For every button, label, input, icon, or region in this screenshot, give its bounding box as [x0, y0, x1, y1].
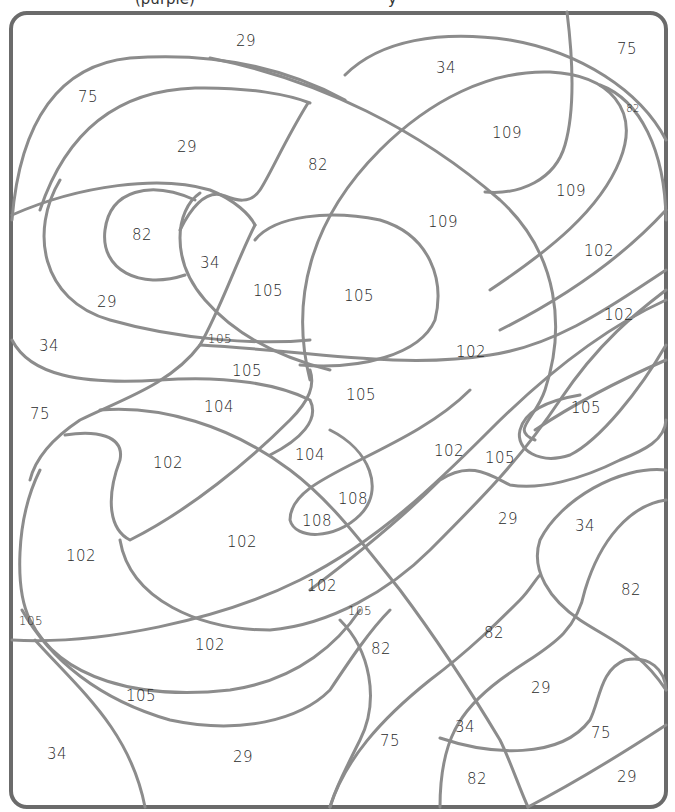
region-label: 102 — [434, 442, 464, 460]
region-label: 82 — [371, 640, 391, 658]
region-label: 102 — [227, 533, 257, 551]
region-label: 104 — [204, 398, 234, 416]
color-by-number-worksheet: (purple) y — [0, 0, 675, 812]
region-label: 82 — [467, 770, 487, 788]
region-label: 108 — [338, 490, 368, 508]
region-label: 82 — [132, 226, 152, 244]
region-label: 105 — [571, 399, 601, 417]
region-label: 108 — [302, 512, 332, 530]
region-label: 82 — [626, 103, 640, 114]
region-label: 34 — [455, 718, 475, 736]
region-label: 105 — [348, 604, 372, 618]
region-label: 105 — [344, 287, 374, 305]
region-label: 102 — [456, 343, 486, 361]
region-label: 29 — [617, 768, 637, 786]
region-label: 75 — [380, 732, 400, 750]
region-label: 29 — [97, 293, 117, 311]
region-label: 29 — [531, 679, 551, 697]
region-label: 104 — [295, 446, 325, 464]
region-label: 105 — [346, 386, 376, 404]
region-label: 109 — [556, 182, 586, 200]
region-label: 82 — [621, 581, 641, 599]
region-label: 102 — [604, 306, 634, 324]
region-label: 75 — [78, 88, 98, 106]
region-label: 105 — [485, 449, 515, 467]
region-label: 109 — [428, 213, 458, 231]
region-label: 82 — [308, 156, 328, 174]
region-label: 102 — [153, 454, 183, 472]
region-label: 102 — [66, 547, 96, 565]
region-label: 105 — [208, 332, 232, 346]
region-label: 75 — [617, 40, 637, 58]
region-label: 105 — [253, 282, 283, 300]
region-label: 34 — [200, 254, 220, 272]
region-label: 29 — [233, 748, 253, 766]
region-label: 29 — [177, 138, 197, 156]
region-label: 34 — [47, 745, 67, 763]
region-label: 34 — [575, 517, 595, 535]
region-label: 102 — [307, 577, 337, 595]
region-label: 109 — [492, 124, 522, 142]
region-label: 29 — [498, 510, 518, 528]
region-label: 105 — [126, 687, 156, 705]
region-label: 105 — [19, 614, 43, 628]
region-label: 75 — [591, 724, 611, 742]
region-label: 82 — [484, 624, 504, 642]
region-label: 34 — [39, 337, 59, 355]
region-label: 102 — [195, 636, 225, 654]
region-boundaries — [12, 12, 666, 807]
region-label: 34 — [436, 59, 456, 77]
region-label: 105 — [232, 362, 262, 380]
region-label: 102 — [584, 242, 614, 260]
region-label: 29 — [236, 32, 256, 50]
region-label: 75 — [30, 405, 50, 423]
